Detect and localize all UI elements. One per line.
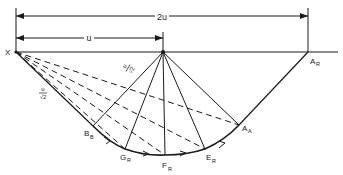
ray-to-fr bbox=[163, 52, 165, 155]
label-g-r: G R bbox=[120, 153, 131, 163]
dashed-ray-to-aa bbox=[16, 52, 239, 125]
svg-text:F: F bbox=[162, 161, 167, 170]
svg-text:u: u bbox=[41, 86, 44, 92]
line-ar-to-aa bbox=[239, 52, 308, 125]
svg-text:A: A bbox=[248, 128, 252, 134]
ray-to-bb bbox=[93, 52, 163, 126]
origin-point-x bbox=[14, 50, 17, 53]
label-a-r: A R bbox=[310, 57, 320, 67]
svg-text:R: R bbox=[127, 157, 131, 163]
dashed-ray-to-gr bbox=[16, 52, 125, 149]
svg-text:R: R bbox=[316, 61, 320, 67]
label-u: u bbox=[86, 33, 91, 43]
arc-arrow-4 bbox=[219, 141, 225, 148]
label-a-a: A A bbox=[242, 124, 252, 134]
line-x-to-bb bbox=[16, 52, 93, 126]
label-e-r: E R bbox=[206, 153, 216, 164]
svg-text:B: B bbox=[84, 129, 89, 138]
ray-to-aa bbox=[163, 52, 239, 125]
svg-text:B: B bbox=[90, 134, 94, 140]
center-apex-point bbox=[161, 50, 165, 54]
ray-to-er bbox=[163, 52, 205, 149]
label-u-over-root2: u √2 bbox=[39, 86, 47, 100]
label-x: X bbox=[5, 48, 11, 57]
svg-text:√2: √2 bbox=[40, 94, 47, 100]
label-2u: 2u bbox=[157, 12, 167, 22]
svg-text:u: u bbox=[121, 63, 128, 69]
velocity-diagram: 2u u X u √2 u √2 A R B B G R F R E R A A bbox=[0, 0, 343, 175]
dashed-ray-to-er bbox=[16, 52, 205, 149]
svg-text:R: R bbox=[168, 166, 172, 172]
svg-text:E: E bbox=[206, 153, 211, 162]
label-f-r: F R bbox=[162, 161, 172, 172]
label-u-over-root2-rotated: u √2 bbox=[120, 61, 136, 75]
svg-text:G: G bbox=[120, 153, 126, 162]
svg-text:R: R bbox=[212, 158, 216, 164]
label-b-b: B B bbox=[84, 129, 94, 140]
